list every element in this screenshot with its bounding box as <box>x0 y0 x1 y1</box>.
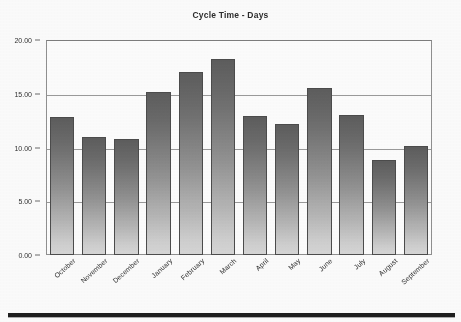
bar-august <box>372 160 396 255</box>
x-tick-label-august: August <box>377 257 398 277</box>
x-tick-label-october: October <box>53 257 77 279</box>
y-tick-label: 5.00 <box>18 198 32 205</box>
bar-february <box>179 72 203 255</box>
bar-november <box>82 137 106 255</box>
footer-rule-shadow <box>8 317 455 318</box>
scanned-chart-page: Cycle Time - Days 0.005.0010.0015.0020.0… <box>0 0 461 322</box>
y-tick-mark <box>35 147 40 148</box>
bar-march <box>211 59 235 255</box>
y-tick-label: 0.00 <box>18 252 32 259</box>
x-tick-label-april: April <box>254 257 269 272</box>
bar-june <box>307 88 331 255</box>
x-axis: OctoberNovemberDecemberJanuaryFebruaryMa… <box>46 257 432 315</box>
y-tick-label: 20.00 <box>14 37 32 44</box>
bar-september <box>404 146 428 255</box>
x-tick-label-may: May <box>287 257 302 271</box>
x-tick-label-july: July <box>352 257 366 271</box>
bar-may <box>275 124 299 255</box>
y-tick-mark <box>35 93 40 94</box>
x-tick-label-march: March <box>218 257 238 276</box>
y-tick-label: 10.00 <box>14 144 32 151</box>
bar-october <box>50 117 74 255</box>
y-tick-mark <box>35 40 40 41</box>
x-tick-label-november: November <box>80 257 109 284</box>
x-tick-label-december: December <box>112 257 141 284</box>
y-tick-label: 15.00 <box>14 90 32 97</box>
y-axis: 0.005.0010.0015.0020.00 <box>0 40 40 255</box>
bar-december <box>114 139 138 255</box>
y-tick-mark <box>35 255 40 256</box>
x-tick-label-june: June <box>318 257 334 273</box>
bar-april <box>243 116 267 255</box>
chart-title: Cycle Time - Days <box>0 10 461 20</box>
bar-july <box>339 115 363 255</box>
x-tick-label-february: February <box>179 257 205 281</box>
x-tick-label-september: September <box>400 257 431 286</box>
y-tick-mark <box>35 201 40 202</box>
bar-january <box>146 92 170 255</box>
bar-series <box>46 40 432 255</box>
x-tick-label-january: January <box>150 257 174 279</box>
